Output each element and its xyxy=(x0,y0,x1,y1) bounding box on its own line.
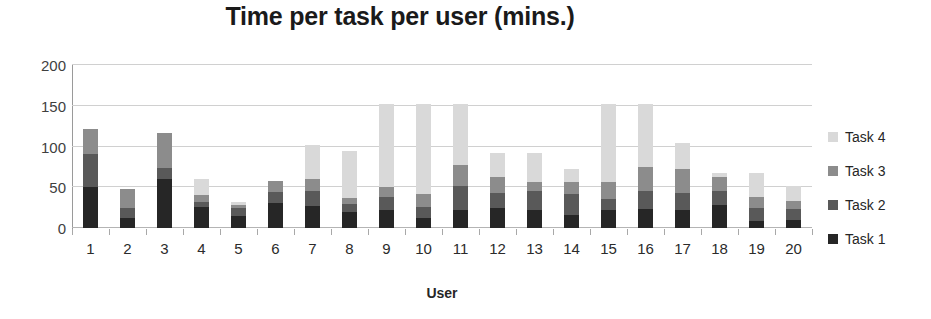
bar-segment[interactable] xyxy=(416,218,431,228)
bar-group[interactable] xyxy=(157,133,172,228)
bar-segment[interactable] xyxy=(416,207,431,218)
bar-segment[interactable] xyxy=(231,216,246,228)
bar-segment[interactable] xyxy=(786,186,801,201)
bar-group[interactable] xyxy=(490,153,505,228)
bar-segment[interactable] xyxy=(305,145,320,179)
bar-segment[interactable] xyxy=(120,189,135,209)
bar-segment[interactable] xyxy=(453,104,468,165)
bar-segment[interactable] xyxy=(379,187,394,197)
bar-group[interactable] xyxy=(638,104,653,228)
bar-segment[interactable] xyxy=(564,169,579,181)
bar-segment[interactable] xyxy=(268,192,283,203)
bar-segment[interactable] xyxy=(120,208,135,218)
bar-segment[interactable] xyxy=(453,165,468,185)
bar-segment[interactable] xyxy=(564,182,579,194)
bar-segment[interactable] xyxy=(453,210,468,228)
bar-segment[interactable] xyxy=(83,154,98,187)
bar-segment[interactable] xyxy=(342,212,357,228)
bar-segment[interactable] xyxy=(157,168,172,179)
bar-segment[interactable] xyxy=(749,197,764,208)
bar-segment[interactable] xyxy=(527,182,542,190)
bar-segment[interactable] xyxy=(83,187,98,228)
bar-segment[interactable] xyxy=(638,104,653,167)
bar-group[interactable] xyxy=(712,173,727,228)
bar-group[interactable] xyxy=(453,104,468,228)
bar-group[interactable] xyxy=(416,104,431,228)
bar-segment[interactable] xyxy=(490,153,505,177)
bar-group[interactable] xyxy=(194,179,209,228)
bar-group[interactable] xyxy=(231,202,246,228)
bar-group[interactable] xyxy=(342,151,357,228)
bar-segment[interactable] xyxy=(490,177,505,193)
bar-segment[interactable] xyxy=(712,177,727,191)
bar-segment[interactable] xyxy=(305,179,320,191)
bar-segment[interactable] xyxy=(305,191,320,206)
bar-segment[interactable] xyxy=(490,193,505,208)
bar-segment[interactable] xyxy=(194,179,209,195)
legend-item[interactable]: Task 4 xyxy=(828,120,928,154)
bar-segment[interactable] xyxy=(490,208,505,228)
bar-group[interactable] xyxy=(83,129,98,228)
bar-segment[interactable] xyxy=(564,215,579,228)
bar-segment[interactable] xyxy=(83,129,98,154)
x-axis-tick-label: 13 xyxy=(526,240,543,257)
bar-segment[interactable] xyxy=(712,191,727,206)
bar-segment[interactable] xyxy=(268,181,283,192)
bar-segment[interactable] xyxy=(786,209,801,220)
bar-segment[interactable] xyxy=(675,143,690,168)
legend-item-label: Task 3 xyxy=(845,163,885,179)
bar-group[interactable] xyxy=(786,186,801,228)
bar-segment[interactable] xyxy=(342,151,357,198)
bar-segment[interactable] xyxy=(786,201,801,209)
bar-group[interactable] xyxy=(379,104,394,228)
bar-segment[interactable] xyxy=(527,191,542,211)
legend-item-label: Task 1 xyxy=(845,231,885,247)
bar-group[interactable] xyxy=(675,143,690,228)
bar-segment[interactable] xyxy=(157,133,172,167)
bar-segment[interactable] xyxy=(379,197,394,210)
bar-segment[interactable] xyxy=(527,210,542,228)
bar-group[interactable] xyxy=(305,145,320,228)
bar-segment[interactable] xyxy=(638,167,653,191)
bar-segment[interactable] xyxy=(342,204,357,211)
bar-segment[interactable] xyxy=(786,220,801,228)
bar-segment[interactable] xyxy=(564,194,579,215)
bar-segment[interactable] xyxy=(416,194,431,207)
legend-item[interactable]: Task 1 xyxy=(828,222,928,256)
bar-segment[interactable] xyxy=(638,209,653,228)
bar-segment[interactable] xyxy=(601,199,616,210)
bar-segment[interactable] xyxy=(416,104,431,194)
bar-segment[interactable] xyxy=(194,207,209,228)
bar-group[interactable] xyxy=(749,173,764,228)
bar-segment[interactable] xyxy=(675,193,690,210)
legend-item[interactable]: Task 3 xyxy=(828,154,928,188)
bar-segment[interactable] xyxy=(749,208,764,220)
bar-segment[interactable] xyxy=(268,203,283,228)
x-axis-tick-mark xyxy=(627,229,628,235)
bar-segment[interactable] xyxy=(231,208,246,215)
bar-segment[interactable] xyxy=(527,153,542,182)
bar-segment[interactable] xyxy=(379,210,394,228)
bar-segment[interactable] xyxy=(379,104,394,187)
bar-segment[interactable] xyxy=(601,210,616,228)
bar-segment[interactable] xyxy=(749,221,764,228)
bar-group[interactable] xyxy=(527,153,542,228)
bar-group[interactable] xyxy=(120,189,135,228)
bar-segment[interactable] xyxy=(453,186,468,210)
bar-group[interactable] xyxy=(601,104,616,228)
legend-item[interactable]: Task 2 xyxy=(828,188,928,222)
x-axis-tick-label: 10 xyxy=(415,240,432,257)
bar-group[interactable] xyxy=(268,181,283,228)
bar-segment[interactable] xyxy=(749,173,764,197)
bar-segment[interactable] xyxy=(675,169,690,193)
bar-segment[interactable] xyxy=(305,206,320,228)
bar-group[interactable] xyxy=(564,169,579,228)
y-axis-tick-label: 0 xyxy=(22,220,66,237)
bar-segment[interactable] xyxy=(601,104,616,181)
bar-segment[interactable] xyxy=(157,179,172,228)
bar-segment[interactable] xyxy=(601,182,616,200)
bar-segment[interactable] xyxy=(712,205,727,228)
bar-segment[interactable] xyxy=(675,210,690,228)
bar-segment[interactable] xyxy=(120,218,135,228)
bar-segment[interactable] xyxy=(638,191,653,209)
